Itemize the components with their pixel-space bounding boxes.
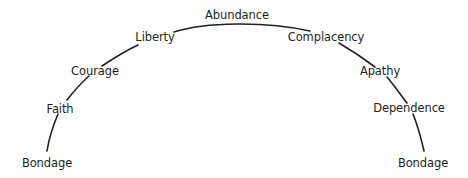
- stage-complacency: Complacency: [288, 30, 365, 44]
- stage-faith: Faith: [46, 102, 73, 116]
- stage-bondage-start: Bondage: [22, 156, 72, 170]
- stage-dependence: Dependence: [373, 101, 445, 115]
- cycle-arc: [0, 0, 468, 178]
- stage-abundance: Abundance: [205, 8, 269, 22]
- stage-bondage-end: Bondage: [398, 156, 448, 170]
- stage-liberty: Liberty: [135, 30, 174, 44]
- stage-courage: Courage: [71, 64, 119, 78]
- stage-apathy: Apathy: [360, 64, 400, 78]
